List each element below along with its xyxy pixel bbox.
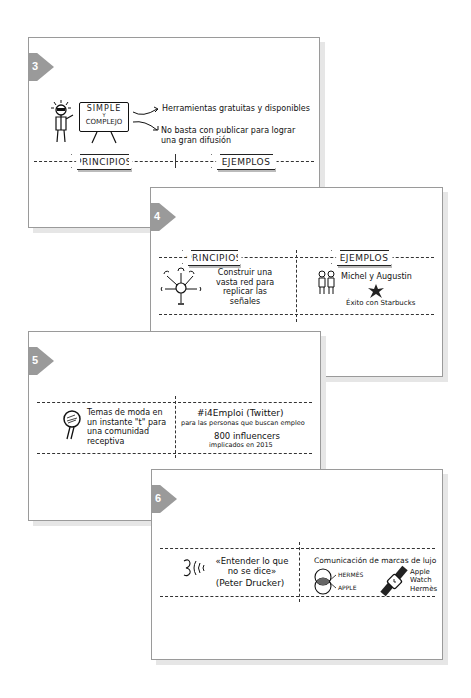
ear-sound-icon (182, 558, 210, 578)
starburst-icon (368, 284, 384, 298)
watch-icon (379, 566, 409, 596)
vertical-divider (296, 250, 297, 322)
principios-banner: PRINCIPIOS (77, 154, 131, 170)
watch-label: Apple Watch Hermès (410, 568, 440, 593)
example-michel-augustin: Michel y Augustin (341, 272, 421, 282)
venn-diagram-icon (312, 568, 338, 596)
influencer-count: 800 influencers (214, 431, 304, 441)
top-divider-line (160, 548, 435, 549)
network-icon (161, 268, 201, 308)
example-starbucks: Éxito con Starbucks (346, 299, 436, 307)
hashtag-subtitle: para las personas que buscan empleo (181, 420, 321, 428)
magnifier-icon (61, 409, 83, 441)
vertical-divider (175, 396, 176, 458)
ejemplos-banner: EJEMPLOS (217, 154, 275, 170)
influencer-note: implicados en 2015 (209, 442, 309, 450)
venn-label-apple: APPLE (338, 584, 356, 591)
hashtag-title: #i4Emploi (Twitter) (197, 408, 317, 419)
bottom-divider-line (160, 596, 435, 597)
principle-text: Construir una vasta red para replicar la… (209, 268, 281, 306)
quote-author: (Peter Drucker) (210, 578, 290, 589)
slide-number-badge: 5 (28, 347, 54, 375)
trending-topics-text: Temas de moda en un instante "t" para un… (87, 408, 171, 446)
two-people-icon (316, 268, 338, 296)
ejemplos-banner: EJEMPLOS (337, 250, 391, 266)
board-line-3: COMPLEJO (80, 119, 128, 126)
slide-number-badge: 4 (150, 203, 176, 231)
principios-banner: PRINCIPIOS (188, 250, 240, 266)
vertical-divider (175, 154, 176, 168)
point-1: Herramientas gratuitas y disponibles (162, 104, 322, 114)
presenter-icon (51, 100, 75, 144)
slide-card-6: 6 «Entender lo que no se dice» (Peter Dr… (151, 469, 443, 660)
venn-label-hermes: HERMÈS (338, 571, 363, 578)
slide-number-badge: 3 (28, 53, 54, 81)
vertical-divider (299, 542, 300, 602)
arrow-icon (133, 106, 163, 136)
point-2: No basta con publicar para lograr una gr… (161, 126, 311, 145)
simple-complejo-board: SIMPLE Y COMPLEJO (79, 102, 129, 132)
drucker-quote: «Entender lo que no se dice» (212, 556, 292, 576)
board-stand-icon (89, 132, 119, 144)
luxury-brand-title: Comunicación de marcas de lujo (314, 556, 439, 565)
slide-number-badge: 6 (151, 485, 177, 513)
